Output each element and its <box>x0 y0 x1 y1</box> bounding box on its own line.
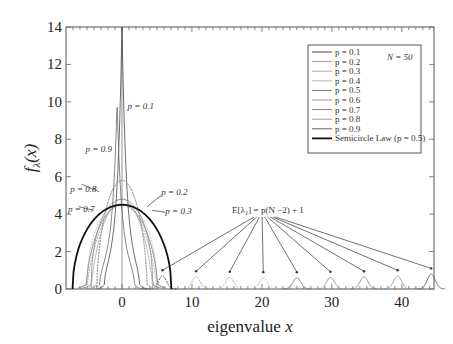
svg-text:p = 0.4: p = 0.4 <box>335 76 361 86</box>
svg-text:4: 4 <box>55 206 63 222</box>
svg-text:12: 12 <box>47 56 62 72</box>
svg-text:p = 0.6: p = 0.6 <box>335 95 361 105</box>
svg-text:p = 0.1: p = 0.1 <box>335 47 360 57</box>
svg-text:40: 40 <box>394 294 409 310</box>
svg-text:10: 10 <box>184 294 199 310</box>
svg-text:20: 20 <box>254 294 269 310</box>
x-axis-label: eigenvalue x <box>207 317 293 336</box>
svg-text:p = 0.1: p = 0.1 <box>127 101 154 111</box>
svg-text:30: 30 <box>324 294 339 310</box>
svg-text:fλ(x): fλ(x) <box>21 143 42 172</box>
svg-text:p = 0.5: p = 0.5 <box>335 85 361 95</box>
svg-text:Semicircle Law (p = 0.5): Semicircle Law (p = 0.5) <box>335 133 425 143</box>
svg-text:p = 0.2: p = 0.2 <box>335 57 360 67</box>
legend-note: N = 50 <box>386 52 413 62</box>
svg-text:p = 0.3: p = 0.3 <box>164 206 192 216</box>
x-axis-tick-labels: 010203040 <box>118 294 409 310</box>
svg-text:14: 14 <box>47 19 63 35</box>
svg-text:8: 8 <box>55 131 63 147</box>
svg-text:6: 6 <box>55 169 63 185</box>
eigenvalue-density-chart: 010203040 02468101214 p = 0.1p = 0.9p = … <box>0 0 453 344</box>
svg-text:10: 10 <box>47 94 62 110</box>
svg-text:p = 0.9: p = 0.9 <box>85 144 113 154</box>
legend: N = 50 p = 0.1p = 0.2p = 0.3p = 0.4p = 0… <box>308 45 425 153</box>
y-axis-tick-labels: 02468101214 <box>47 19 63 297</box>
svg-text:p = 0.2: p = 0.2 <box>160 187 188 197</box>
svg-text:2: 2 <box>55 244 63 260</box>
formula-annotation: E[λ1] = p(N −2) + 1 <box>232 205 304 217</box>
svg-text:p = 0.9: p = 0.9 <box>335 124 361 134</box>
svg-text:p = 0.7: p = 0.7 <box>335 105 361 115</box>
svg-text:0: 0 <box>118 294 126 310</box>
svg-text:0: 0 <box>55 281 63 297</box>
svg-text:p = 0.3: p = 0.3 <box>335 66 361 76</box>
svg-text:p = 0.8: p = 0.8 <box>335 114 361 124</box>
y-axis-label: fλ(x) <box>21 143 42 172</box>
